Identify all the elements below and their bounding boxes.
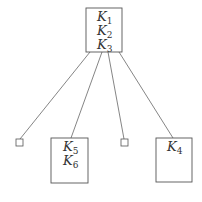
child-node-k4: K4 xyxy=(156,138,192,182)
edge-root-to-child-2 xyxy=(71,52,102,138)
root-node: K1 K2 K3 xyxy=(86,8,122,54)
edge-root-to-child-4 xyxy=(119,52,173,138)
edge-root-to-child-1 xyxy=(20,52,90,139)
child-node-k5-k6: K5 K6 xyxy=(51,138,88,183)
empty-leaf-2 xyxy=(121,139,128,146)
empty-leaf-1 xyxy=(16,139,23,146)
tree-diagram: K1 K2 K3 K5 K6 K4 xyxy=(0,0,202,202)
edge-root-to-child-3 xyxy=(108,52,124,139)
